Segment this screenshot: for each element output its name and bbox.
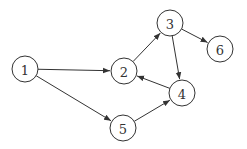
node-label: 2	[120, 65, 128, 80]
node-2: 2	[111, 58, 137, 84]
edge-5-to-4	[134, 100, 170, 121]
directed-graph: 123456	[0, 0, 247, 149]
edge-3-to-4	[172, 36, 179, 79]
node-4: 4	[169, 80, 195, 106]
edge-1-to-5	[36, 76, 111, 121]
edge-4-to-2	[137, 76, 170, 88]
node-5: 5	[110, 115, 136, 141]
edge-1-to-2	[38, 69, 110, 70]
node-label: 4	[178, 87, 186, 102]
edge-3-to-6	[182, 29, 208, 43]
node-label: 3	[166, 17, 174, 32]
node-1: 1	[12, 56, 38, 82]
node-label: 1	[21, 63, 29, 78]
node-3: 3	[157, 10, 183, 36]
edge-2-to-3	[133, 33, 160, 62]
node-label: 5	[119, 122, 127, 137]
node-6: 6	[207, 36, 233, 62]
node-label: 6	[216, 43, 224, 58]
nodes-layer: 123456	[12, 10, 233, 141]
